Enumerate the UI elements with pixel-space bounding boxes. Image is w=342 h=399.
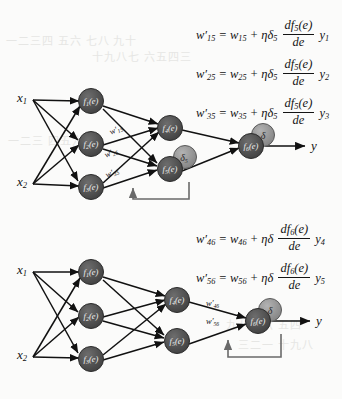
upper-output-label-y: y (311, 138, 317, 154)
equation-w56: w′56 = w56 + ηδ df6(e) de y5 (196, 261, 325, 292)
svg-text:f2(e): f2(e) (84, 311, 99, 322)
lower-input-label-x2: x2 (17, 347, 27, 363)
svg-text:f6(e): f6(e) (251, 316, 266, 327)
upper-layer2-node-5: f5(e) (158, 157, 183, 182)
svg-text:f2(e): f2(e) (84, 139, 99, 150)
equation-w15: w′15 = w15 + ηδ5 df5(e) de y1 (196, 18, 329, 49)
lower-layer1-node-3: f3(e) (79, 347, 104, 372)
svg-text:f1(e): f1(e) (84, 96, 99, 107)
upper-layer1-node-3: f3(e) (79, 175, 104, 200)
feedback-loop-lower (228, 334, 281, 357)
upper-layer2-node-4: f4(e) (158, 116, 183, 141)
upper-layer1-node-1: f1(e) (79, 89, 104, 114)
upper-output-node-6: f6(e) (239, 134, 264, 159)
lower-output-node-6: f6(e) (246, 309, 271, 334)
svg-text:f5(e): f5(e) (163, 164, 178, 175)
equation-w25: w′25 = w25 + ηδ5 df5(e) de y2 (196, 57, 329, 88)
lower-output-label-y: y (316, 313, 322, 329)
lower-layer2-node-5: f5(e) (165, 329, 190, 354)
upper-input-label-x1: x1 (17, 90, 27, 106)
figure-page: 一二三四 五六 七八 九十 十九八七 六五四三 一二三 四五六七 九八七六 五四… (0, 0, 342, 399)
equation-w35: w′35 = w35 + ηδ5 df5(e) de y3 (196, 96, 329, 127)
lower-weight-label-w56: w′56 (206, 316, 219, 327)
svg-text:f6(e): f6(e) (244, 141, 259, 152)
lower-layer1-node-2: f2(e) (79, 304, 104, 329)
svg-text:f4(e): f4(e) (170, 295, 185, 306)
lower-layer1-node-1: f1(e) (79, 260, 104, 285)
svg-text:f3(e): f3(e) (84, 354, 99, 365)
svg-text:f4(e): f4(e) (163, 123, 178, 134)
lower-input-label-x1: x1 (17, 262, 27, 278)
lower-layer2-node-4: f4(e) (165, 288, 190, 313)
feedback-loop-upper (133, 182, 189, 199)
svg-text:f5(e): f5(e) (170, 336, 185, 347)
equation-w46: w′46 = w46 + ηδ df6(e) de y4 (196, 222, 325, 253)
upper-input-label-x2: x2 (17, 174, 27, 190)
lower-weight-label-w46: w′46 (206, 298, 219, 309)
svg-text:f1(e): f1(e) (84, 267, 99, 278)
upper-layer1-node-2: f2(e) (79, 132, 104, 157)
svg-text:f3(e): f3(e) (84, 182, 99, 193)
